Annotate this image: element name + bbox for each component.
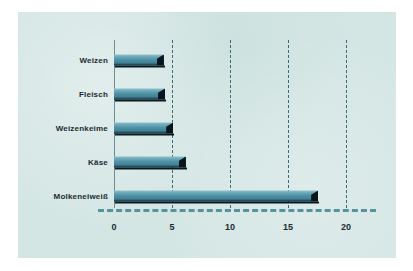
bar-shadow [115, 202, 319, 204]
x-tick-label: 0 [111, 222, 116, 232]
x-tick-label: 20 [341, 222, 351, 232]
bar [114, 191, 318, 202]
bar-end-cap [179, 157, 186, 168]
category-label: Weizen [79, 56, 108, 65]
bar-shadow [115, 100, 166, 102]
x-tick-label: 15 [283, 222, 293, 232]
category-label: Weizenkeime [56, 124, 108, 133]
bar-end-cap [166, 123, 173, 134]
category-label: Käse [88, 158, 108, 167]
chart-plot-area: WeizenFleischWeizenkeimeKäseMolkeneiweiß… [0, 0, 413, 271]
category-label: Fleisch [79, 90, 108, 99]
gridline-10 [230, 40, 231, 208]
bar [114, 123, 173, 134]
bar-end-cap [157, 55, 164, 66]
bar-end-cap [311, 191, 318, 202]
gridline-20 [346, 40, 347, 208]
bar [114, 89, 165, 100]
bar-shadow [115, 134, 174, 136]
gridline-15 [288, 40, 289, 208]
bar-end-cap [158, 89, 165, 100]
chart-figure: WeizenFleischWeizenkeimeKäseMolkeneiweiß… [0, 0, 413, 271]
bar-shadow [115, 66, 165, 68]
x-tick-label: 10 [225, 222, 235, 232]
category-label: Molkeneiweiß [54, 192, 108, 201]
x-tick-label: 5 [169, 222, 174, 232]
bar-shadow [115, 168, 187, 170]
bar [114, 55, 164, 66]
bar [114, 157, 186, 168]
dashed-baseline [98, 209, 376, 212]
